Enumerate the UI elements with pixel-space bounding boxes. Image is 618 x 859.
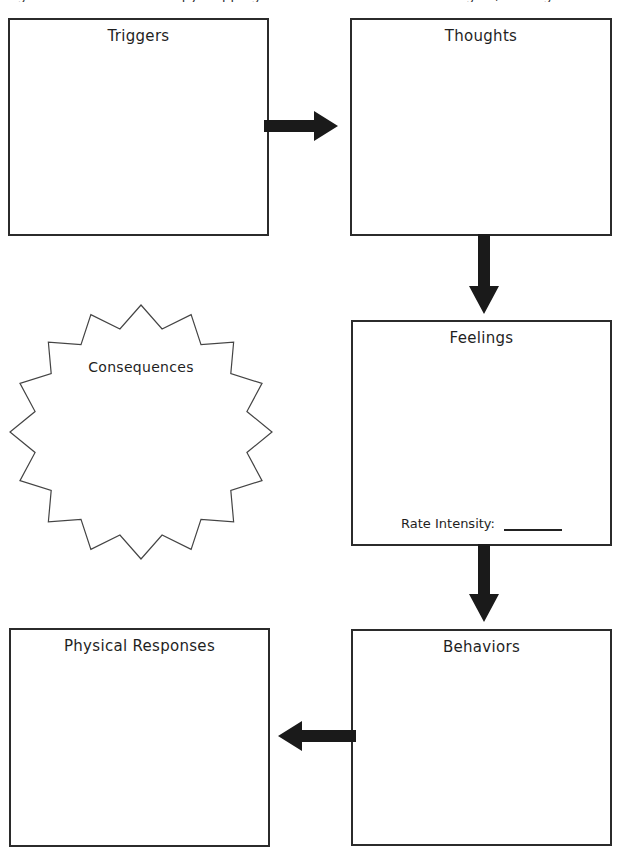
behaviors-title: Behaviors [353,638,610,657]
arrow-thoughts-to-feelings [466,234,502,316]
feelings-box[interactable]: Feelings Rate Intensity: [351,320,612,546]
physical-responses-box[interactable]: Physical Responses [9,628,270,847]
triggers-box[interactable]: Triggers [8,18,269,236]
triggers-title: Triggers [10,27,267,46]
rate-intensity-row: Rate Intensity: [353,516,610,531]
page-caption: Cognitive Behavioral Therapy Mapping the… [0,0,618,2]
cbt-worksheet: Cognitive Behavioral Therapy Mapping the… [0,0,618,859]
arrow-right-icon [264,108,340,144]
consequences-title: Consequences [8,359,274,375]
arrow-feelings-to-behaviors [466,544,502,624]
arrow-down-icon [466,234,502,316]
arrow-left-icon [276,718,356,754]
arrow-triggers-to-thoughts [264,108,340,144]
rate-intensity-label: Rate Intensity: [401,516,495,531]
arrow-behaviors-to-physical [276,718,356,754]
consequences-starburst[interactable]: Consequences [8,303,274,561]
thoughts-title: Thoughts [352,27,610,46]
behaviors-box[interactable]: Behaviors [351,629,612,846]
physical-responses-title: Physical Responses [11,637,268,656]
arrow-down-icon [466,544,502,624]
thoughts-box[interactable]: Thoughts [350,18,612,236]
feelings-title: Feelings [353,329,610,348]
starburst-shape [8,303,274,561]
rate-intensity-input[interactable] [504,518,562,531]
